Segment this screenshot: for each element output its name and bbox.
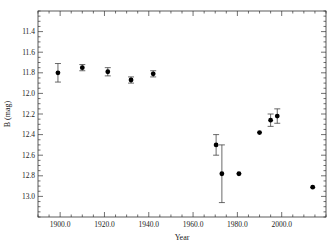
x-axis-label: Year bbox=[175, 233, 190, 242]
data-point bbox=[219, 171, 224, 176]
data-point bbox=[129, 78, 134, 83]
y-tick-label: 12.6 bbox=[22, 151, 35, 160]
plot-frame bbox=[38, 11, 326, 217]
y-axis-label: B (mag) bbox=[3, 100, 12, 127]
data-point bbox=[56, 70, 61, 75]
y-axis: 11.411.611.812.012.212.412.612.813.0 bbox=[22, 11, 326, 217]
data-point bbox=[151, 71, 156, 76]
chart: 1900.01920.01940.01960.01980.02000.0 11.… bbox=[0, 0, 336, 247]
x-tick-label: 2000.0 bbox=[271, 220, 292, 229]
data-point bbox=[310, 185, 315, 190]
y-tick-label: 11.4 bbox=[22, 27, 35, 36]
x-tick-label: 1960.0 bbox=[183, 220, 204, 229]
data-point bbox=[80, 65, 85, 70]
y-tick-label: 13.0 bbox=[22, 192, 35, 201]
data-point bbox=[275, 114, 280, 119]
y-tick-label: 12.0 bbox=[22, 89, 35, 98]
y-tick-label: 11.8 bbox=[22, 68, 35, 77]
data-series bbox=[55, 64, 315, 203]
x-tick-label: 1920.0 bbox=[94, 220, 115, 229]
x-tick-label: 1900.0 bbox=[50, 220, 71, 229]
data-point bbox=[257, 130, 262, 135]
x-tick-label: 1940.0 bbox=[138, 220, 159, 229]
x-tick-label: 1980.0 bbox=[227, 220, 248, 229]
data-point bbox=[105, 69, 110, 74]
x-axis: 1900.01920.01940.01960.01980.02000.0 bbox=[38, 11, 326, 229]
y-tick-label: 12.4 bbox=[22, 130, 35, 139]
y-tick-label: 11.6 bbox=[22, 48, 35, 57]
data-point bbox=[237, 171, 242, 176]
y-tick-label: 12.2 bbox=[22, 110, 35, 119]
data-point bbox=[214, 143, 219, 148]
data-point bbox=[268, 118, 273, 123]
y-tick-label: 12.8 bbox=[22, 171, 35, 180]
